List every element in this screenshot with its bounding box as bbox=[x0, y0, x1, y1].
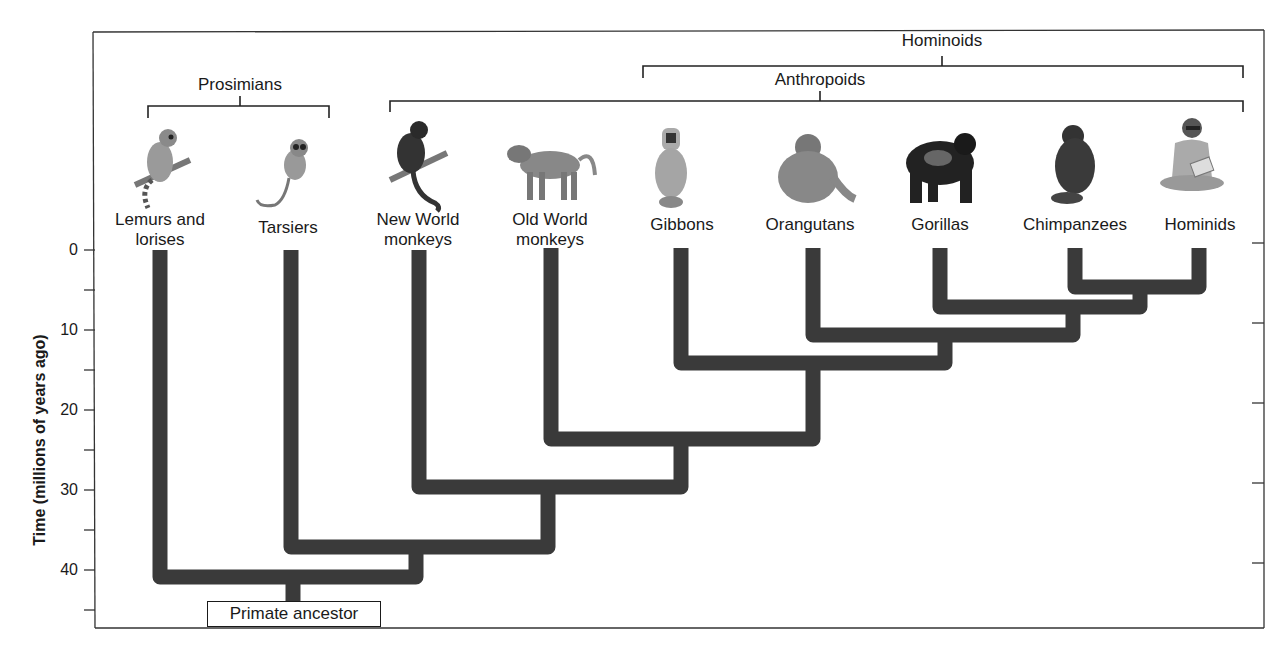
orangutan-illustration bbox=[778, 134, 855, 203]
taxon-label-gorillas: Gorillas bbox=[880, 215, 1000, 235]
prosimians-bracket bbox=[148, 96, 329, 118]
primate-phylogeny-diagram: Prosimians Anthropoids Hominoids Lemurs … bbox=[0, 0, 1286, 657]
taxon-label-tarsiers: Tarsiers bbox=[228, 218, 348, 238]
taxon-label-orangutans: Orangutans bbox=[750, 215, 870, 235]
group-label-anthropoids: Anthropoids bbox=[760, 70, 880, 90]
tarsier-illustration bbox=[257, 139, 308, 206]
y-axis-title: Time (millions of years ago) bbox=[31, 334, 49, 545]
taxon-label-lemurs: Lemurs and lorises bbox=[100, 210, 220, 250]
branch-gorilla bbox=[940, 248, 1140, 307]
taxon-label-chimpanzees: Chimpanzees bbox=[1010, 215, 1140, 235]
tick-label-20: 20 bbox=[48, 401, 78, 419]
anthropoids-bracket bbox=[390, 91, 1243, 112]
right-axis-ticks bbox=[1252, 243, 1264, 563]
tree-canvas bbox=[0, 0, 1286, 657]
tick-label-30: 30 bbox=[48, 481, 78, 499]
primate-ancestor-box: Primate ancestor bbox=[207, 601, 381, 627]
group-label-prosimians: Prosimians bbox=[180, 75, 300, 95]
tick-label-0: 0 bbox=[48, 241, 78, 259]
taxon-label-old-world-monkeys: Old World monkeys bbox=[490, 210, 610, 250]
human-illustration bbox=[1160, 118, 1224, 191]
gibbon-illustration bbox=[655, 128, 687, 208]
new-world-monkey-illustration bbox=[390, 121, 447, 211]
lemur-illustration bbox=[135, 129, 190, 208]
chimpanzee-illustration bbox=[1051, 125, 1095, 204]
hominoids-bracket bbox=[643, 56, 1243, 78]
group-label-hominoids: Hominoids bbox=[882, 31, 1002, 51]
branch-chimp-hominid bbox=[1075, 248, 1199, 287]
gorilla-illustration bbox=[906, 133, 976, 203]
group-brackets bbox=[148, 56, 1243, 118]
tick-label-10: 10 bbox=[48, 321, 78, 339]
taxon-label-gibbons: Gibbons bbox=[622, 215, 742, 235]
tick-label-40: 40 bbox=[48, 561, 78, 579]
taxon-label-new-world-monkeys: New World monkeys bbox=[358, 210, 478, 250]
baboon-illustration bbox=[507, 145, 595, 200]
tree-branches bbox=[160, 248, 1199, 601]
taxon-label-hominids: Hominids bbox=[1140, 215, 1260, 235]
